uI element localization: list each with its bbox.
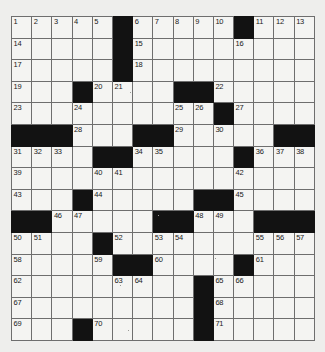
crossword-cell[interactable]: [173, 297, 193, 319]
crossword-cell[interactable]: 13: [294, 17, 314, 39]
crossword-cell[interactable]: [92, 276, 112, 298]
crossword-cell[interactable]: [254, 168, 274, 190]
crossword-cell[interactable]: [32, 81, 52, 103]
crossword-cell[interactable]: [52, 38, 72, 60]
crossword-cell[interactable]: [112, 189, 132, 211]
crossword-cell[interactable]: [112, 103, 132, 125]
crossword-cell[interactable]: [52, 232, 72, 254]
crossword-cell[interactable]: [173, 38, 193, 60]
crossword-cell[interactable]: [32, 254, 52, 276]
crossword-cell[interactable]: [133, 81, 153, 103]
crossword-cell[interactable]: [153, 60, 173, 82]
crossword-cell[interactable]: [213, 254, 233, 276]
crossword-cell[interactable]: [133, 103, 153, 125]
crossword-cell[interactable]: [133, 189, 153, 211]
crossword-cell[interactable]: [294, 60, 314, 82]
crossword-cell[interactable]: [92, 297, 112, 319]
crossword-cell[interactable]: [294, 276, 314, 298]
crossword-cell[interactable]: [72, 254, 92, 276]
crossword-cell[interactable]: 57: [294, 232, 314, 254]
crossword-cell[interactable]: [213, 168, 233, 190]
crossword-cell[interactable]: [274, 103, 294, 125]
crossword-cell[interactable]: [133, 211, 153, 233]
crossword-cell[interactable]: 39: [12, 168, 32, 190]
crossword-cell[interactable]: [92, 211, 112, 233]
crossword-cell[interactable]: 25: [173, 103, 193, 125]
crossword-cell[interactable]: [234, 319, 254, 341]
crossword-cell[interactable]: [254, 81, 274, 103]
crossword-cell[interactable]: 32: [32, 146, 52, 168]
crossword-cell[interactable]: [112, 211, 132, 233]
crossword-cell[interactable]: [254, 124, 274, 146]
crossword-cell[interactable]: [133, 232, 153, 254]
crossword-cell[interactable]: [32, 103, 52, 125]
crossword-cell[interactable]: 69: [12, 319, 32, 341]
crossword-cell[interactable]: [234, 297, 254, 319]
crossword-cell[interactable]: [72, 146, 92, 168]
crossword-cell[interactable]: [173, 254, 193, 276]
crossword-cell[interactable]: [72, 297, 92, 319]
crossword-cell[interactable]: 37: [274, 146, 294, 168]
crossword-cell[interactable]: [213, 60, 233, 82]
crossword-cell[interactable]: [173, 60, 193, 82]
crossword-cell[interactable]: 40: [92, 168, 112, 190]
crossword-cell[interactable]: [234, 124, 254, 146]
crossword-cell[interactable]: [52, 254, 72, 276]
crossword-cell[interactable]: [52, 60, 72, 82]
crossword-cell[interactable]: [294, 103, 314, 125]
crossword-cell[interactable]: [193, 60, 213, 82]
crossword-cell[interactable]: [294, 319, 314, 341]
crossword-cell[interactable]: 1: [12, 17, 32, 39]
crossword-cell[interactable]: [274, 81, 294, 103]
crossword-cell[interactable]: [254, 38, 274, 60]
crossword-cell[interactable]: [133, 168, 153, 190]
crossword-cell[interactable]: [193, 168, 213, 190]
crossword-cell[interactable]: [153, 103, 173, 125]
crossword-cell[interactable]: 70: [92, 319, 112, 341]
crossword-cell[interactable]: [133, 297, 153, 319]
crossword-cell[interactable]: 48: [193, 211, 213, 233]
crossword-cell[interactable]: [92, 124, 112, 146]
crossword-cell[interactable]: 44: [92, 189, 112, 211]
crossword-cell[interactable]: 33: [52, 146, 72, 168]
crossword-cell[interactable]: 23: [12, 103, 32, 125]
crossword-cell[interactable]: [254, 297, 274, 319]
crossword-cell[interactable]: [153, 297, 173, 319]
crossword-cell[interactable]: [254, 276, 274, 298]
crossword-cell[interactable]: [52, 103, 72, 125]
crossword-cell[interactable]: 41: [112, 168, 132, 190]
crossword-cell[interactable]: 11: [254, 17, 274, 39]
crossword-cell[interactable]: [294, 38, 314, 60]
crossword-cell[interactable]: [294, 189, 314, 211]
crossword-cell[interactable]: [72, 60, 92, 82]
crossword-cell[interactable]: [173, 276, 193, 298]
crossword-cell[interactable]: 46: [52, 211, 72, 233]
crossword-cell[interactable]: 56: [274, 232, 294, 254]
crossword-cell[interactable]: 16: [234, 38, 254, 60]
crossword-cell[interactable]: [193, 146, 213, 168]
crossword-cell[interactable]: [193, 232, 213, 254]
crossword-cell[interactable]: 3: [52, 17, 72, 39]
crossword-cell[interactable]: [32, 60, 52, 82]
crossword-cell[interactable]: 12: [274, 17, 294, 39]
crossword-cell[interactable]: 27: [234, 103, 254, 125]
crossword-cell[interactable]: [173, 189, 193, 211]
crossword-cell[interactable]: [32, 319, 52, 341]
crossword-cell[interactable]: [234, 81, 254, 103]
crossword-cell[interactable]: 5: [92, 17, 112, 39]
crossword-cell[interactable]: [254, 103, 274, 125]
crossword-cell[interactable]: [193, 38, 213, 60]
crossword-cell[interactable]: 28: [72, 124, 92, 146]
crossword-cell[interactable]: 10: [213, 17, 233, 39]
crossword-cell[interactable]: 63: [112, 276, 132, 298]
crossword-cell[interactable]: 53: [153, 232, 173, 254]
crossword-cell[interactable]: [274, 319, 294, 341]
crossword-cell[interactable]: [153, 319, 173, 341]
crossword-cell[interactable]: 50: [12, 232, 32, 254]
crossword-cell[interactable]: [234, 232, 254, 254]
crossword-cell[interactable]: [213, 232, 233, 254]
crossword-cell[interactable]: 49: [213, 211, 233, 233]
crossword-cell[interactable]: [173, 146, 193, 168]
crossword-cell[interactable]: [254, 319, 274, 341]
crossword-cell[interactable]: 52: [112, 232, 132, 254]
